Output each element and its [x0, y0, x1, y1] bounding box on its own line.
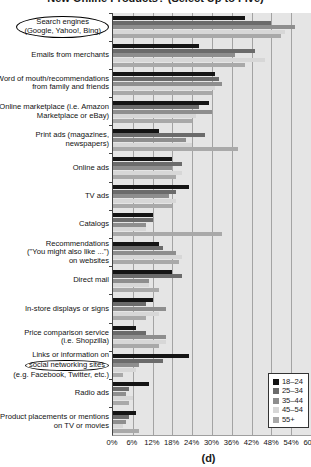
bar-25-34	[113, 105, 199, 109]
category-label-line: Marketplace or eBay)	[37, 112, 109, 121]
bar-35-44	[113, 53, 235, 57]
bar-18-24	[113, 382, 149, 386]
bar-25-34	[113, 190, 176, 194]
x-tick-label: 42%	[244, 438, 259, 447]
category-label-line: (e.g. Facebook, Twitter, etc.)	[13, 371, 109, 380]
plot-area: 18–2425–3435–4445–5455+	[112, 13, 311, 436]
bar-45-54	[113, 171, 182, 175]
legend-label: 25–34	[282, 387, 303, 395]
category-label: Online ads	[0, 154, 112, 182]
category-label-line: TV ads	[85, 192, 109, 201]
bar-25-34	[113, 415, 129, 419]
bar-35-44	[113, 279, 149, 283]
bar-18-24	[113, 242, 159, 246]
bar-35-44	[113, 335, 166, 339]
x-tick-label: 18%	[164, 438, 179, 447]
bar-group	[113, 154, 311, 182]
category-label: Product placements or mentionson TV or m…	[0, 408, 112, 436]
bar-45-54	[113, 227, 146, 231]
bar-25-34	[113, 77, 219, 81]
category-label-line: from family and friends	[32, 83, 109, 92]
x-tick-label: 54%	[283, 438, 298, 447]
chart-title: New Online Products? (Select Up to Five)	[0, 0, 311, 4]
bar-group	[113, 295, 311, 323]
x-tick-label: 6%	[126, 438, 137, 447]
bar-group	[113, 239, 311, 267]
bar-18-24	[113, 270, 172, 274]
bar-group	[113, 210, 311, 238]
x-tick-label: 24%	[184, 438, 199, 447]
bar-45-54	[113, 340, 166, 344]
bar-45-54	[113, 255, 182, 259]
category-label: Links or information onsocial networking…	[0, 351, 112, 379]
bar-45-54	[113, 199, 176, 203]
bar-25-34	[113, 133, 205, 137]
category-label: Emails from merchants	[0, 41, 112, 69]
bar-25-34	[113, 162, 182, 166]
legend-swatch	[273, 379, 279, 385]
category-label: Search engines(Google, Yahoo!, Bing)	[0, 13, 112, 41]
bar-group	[113, 267, 311, 295]
bar-45-54	[113, 58, 265, 62]
category-label-line: (i.e. Shopzilla)	[61, 337, 109, 346]
legend: 18–2425–3435–4445–5455+	[268, 373, 309, 428]
legend-label: 18–24	[282, 378, 303, 386]
category-label: Direct mail	[0, 267, 112, 295]
category-label: TV ads	[0, 182, 112, 210]
bar-group	[113, 41, 311, 69]
category-label-line: Direct mail	[73, 276, 109, 285]
bar-18-24	[113, 354, 189, 358]
category-label-line: In-store displays or signs	[25, 305, 109, 314]
bar-chart: Search engines(Google, Yahoo!, Bing)Emai…	[0, 13, 311, 436]
category-label-line: Links or information on	[32, 351, 109, 360]
bar-18-24	[113, 16, 245, 20]
x-tick-label: 30%	[204, 438, 219, 447]
bar-55+	[113, 91, 212, 95]
category-label-line: Online ads	[73, 164, 109, 173]
bar-group	[113, 98, 311, 126]
bar-18-24	[113, 44, 199, 48]
bar-45-54	[113, 368, 136, 372]
x-tick-label: 0%	[107, 438, 118, 447]
bar-55+	[113, 288, 159, 292]
category-label-line: on websites	[69, 257, 109, 266]
bar-45-54	[113, 86, 215, 90]
bar-35-44	[113, 138, 186, 142]
category-label: Price comparison service(i.e. Shopzilla)	[0, 323, 112, 351]
bar-55+	[113, 316, 146, 320]
x-tick-label: 36%	[224, 438, 239, 447]
bar-55+	[113, 175, 176, 179]
category-label-line: on TV or movies	[54, 422, 109, 431]
legend-swatch	[273, 407, 279, 413]
bar-25-34	[113, 331, 146, 335]
bar-35-44	[113, 420, 126, 424]
bar-35-44	[113, 307, 166, 311]
category-label: Word of mouth/recommendationsfrom family…	[0, 69, 112, 97]
bar-35-44	[113, 194, 169, 198]
bar-35-44	[113, 166, 172, 170]
legend-label: 55+	[282, 416, 295, 424]
bar-25-34	[113, 218, 153, 222]
bar-55+	[113, 34, 281, 38]
caption-d: (d)	[112, 452, 305, 464]
bar-25-34	[113, 246, 163, 250]
bar-55+	[113, 232, 222, 236]
category-label: Print ads (magazines,newspapers)	[0, 126, 112, 154]
bar-55+	[113, 147, 238, 151]
bar-25-34	[113, 359, 163, 363]
bar-25-34	[113, 49, 255, 53]
bar-25-34	[113, 274, 182, 278]
legend-item: 45–54	[273, 406, 303, 414]
bar-18-24	[113, 72, 215, 76]
x-tick-label: 12%	[144, 438, 159, 447]
bar-45-54	[113, 114, 196, 118]
bar-18-24	[113, 411, 136, 415]
bar-45-54	[113, 30, 285, 34]
bar-group	[113, 69, 311, 97]
bar-55+	[113, 401, 129, 405]
bar-45-54	[113, 396, 133, 400]
bar-55+	[113, 373, 123, 377]
x-axis: 0%6%12%18%24%30%36%42%48%54%60%	[112, 438, 311, 449]
x-tick-label: 48%	[264, 438, 279, 447]
category-label: Catalogs	[0, 210, 112, 238]
